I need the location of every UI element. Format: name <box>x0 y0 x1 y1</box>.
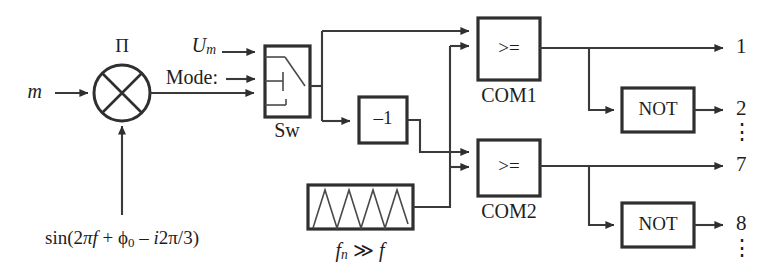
wire-com1-to-not1 <box>589 48 614 110</box>
switch-label: Sw <box>274 119 300 141</box>
multiplier-symbol-label: Π <box>115 35 129 56</box>
input-m-label: m <box>28 80 42 102</box>
comparator1-label: COM1 <box>481 84 537 106</box>
inverter-label: –1 <box>373 107 393 128</box>
output-label-7: 7 <box>736 152 747 176</box>
not2-label: NOT <box>638 213 677 234</box>
ellipsis-upper: ⋮ <box>731 119 753 144</box>
output-label-8: 8 <box>736 211 747 235</box>
switch-block[interactable] <box>265 46 310 117</box>
schematic-svg: Π m sin(2πf + ϕ0 – i2π/3) Sw Um <box>0 0 778 279</box>
wire-carrier-trunk <box>413 46 450 207</box>
carrier-frequency-label: fn ≫ f <box>336 239 387 263</box>
output-label-2: 2 <box>736 96 747 120</box>
input-um-label: Um <box>192 34 216 58</box>
multiplier-block <box>94 65 150 121</box>
sine-reference-formula: sin(2πf + ϕ0 – i2π/3) <box>45 227 199 250</box>
comparator1-symbol: >= <box>498 37 519 58</box>
wire-inverter-to-com2-in1 <box>407 120 469 152</box>
carrier-generator-block[interactable] <box>308 185 413 229</box>
output-label-1: 1 <box>736 34 747 58</box>
input-mode-label: Mode: <box>166 66 218 88</box>
block-diagram-canvas: Π m sin(2πf + ϕ0 – i2π/3) Sw Um <box>0 0 778 279</box>
ellipsis-lower: ⋮ <box>731 235 753 260</box>
comparator2-label: COM2 <box>481 200 537 222</box>
wire-com2-to-not2 <box>589 166 614 225</box>
comparator2-symbol: >= <box>498 155 519 176</box>
not1-label: NOT <box>638 98 677 119</box>
